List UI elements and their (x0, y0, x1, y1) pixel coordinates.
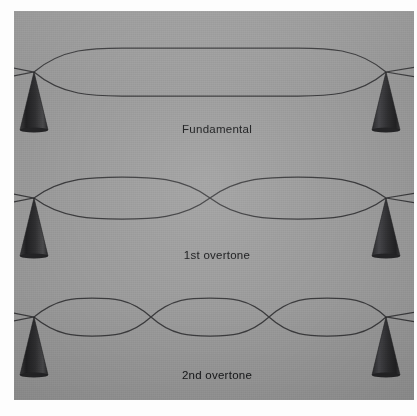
mode-label-overtone-2: 2nd overtone (182, 369, 252, 381)
string-curve-lower (14, 298, 414, 336)
string-curve-upper (14, 177, 414, 219)
cone-right-fundamental-base (372, 127, 400, 132)
string-curve-upper (14, 298, 414, 336)
mode-label-fundamental: Fundamental (182, 123, 252, 135)
cone-left-overtone-1 (20, 198, 48, 256)
cone-right-overtone-1 (372, 198, 400, 256)
cone-left-fundamental (20, 72, 48, 130)
mode-overtone-2 (14, 298, 414, 378)
cone-right-overtone-2 (372, 317, 400, 375)
string-curve-lower (14, 177, 414, 219)
cone-left-overtone-1-base (20, 253, 48, 258)
string-curve-upper (14, 48, 414, 77)
photo-plate: Fundamental 1st overtone 2nd overtone (14, 11, 414, 400)
mode-label-overtone-1: 1st overtone (184, 249, 250, 261)
standing-wave-figure: Fundamental 1st overtone 2nd overtone (0, 0, 417, 416)
cone-left-overtone-2 (20, 317, 48, 375)
cone-right-overtone-1-base (372, 253, 400, 258)
cone-right-fundamental (372, 72, 400, 130)
cone-left-fundamental-base (20, 127, 48, 132)
cone-left-overtone-2-base (20, 372, 48, 377)
mode-overtone-1 (14, 177, 414, 259)
wave-diagram-svg (14, 11, 414, 400)
string-curve-lower (14, 67, 414, 96)
cone-right-overtone-2-base (372, 372, 400, 377)
mode-fundamental (14, 48, 414, 133)
